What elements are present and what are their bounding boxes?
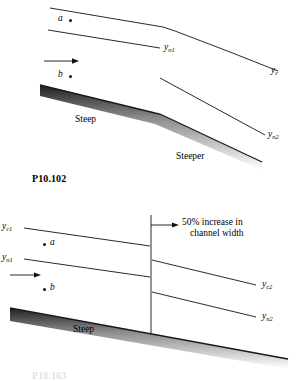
label-point-b: b [50, 283, 55, 293]
channel-bed-band [40, 85, 262, 170]
channel-bed-band [10, 308, 288, 369]
normal-depth-upstream-line [24, 259, 150, 277]
flow-direction-arrow [44, 58, 79, 63]
normal-depth-downstream-line [152, 292, 256, 317]
label-slope-steep: Steep [73, 324, 94, 335]
label-y-n1: yn1 [164, 43, 175, 53]
label-y-n2: yn2 [262, 312, 273, 322]
figure-caption-main: P10.102 [32, 173, 66, 184]
label-point-a: a [58, 14, 63, 24]
critical-depth-line [50, 8, 278, 71]
label-point-b: b [58, 70, 63, 80]
figure-1-canvas [0, 0, 302, 170]
figure-caption-bottom: P10.103 [32, 370, 66, 381]
figure-p10-102: a b yn1 yc yn2 Steep Steeper [0, 0, 302, 170]
flow-direction-arrow [10, 272, 41, 277]
label-slope-steep: Steep [75, 114, 96, 125]
annotation-line-1: 50% increase in [182, 217, 243, 227]
label-slope-steeper: Steeper [176, 151, 205, 162]
normal-depth-upstream-line [48, 30, 160, 48]
critical-depth-downstream-line [152, 260, 256, 285]
channel-bed-surface-line [10, 308, 288, 359]
label-y-c1: yc1 [2, 222, 12, 232]
figure-p10-103: yc1 yn1 a b 50% increase in channel widt… [0, 195, 302, 381]
label-y-c: yc [271, 66, 278, 76]
width-increase-arrow [151, 222, 179, 227]
annotation-line-2: channel width [190, 228, 244, 239]
label-y-n2: yn2 [268, 130, 279, 140]
annotation-width-increase: 50% increase in channel width [182, 217, 244, 239]
label-point-a: a [50, 238, 55, 248]
label-y-n1: yn1 [2, 253, 13, 263]
label-y-c2: yc2 [262, 280, 272, 290]
